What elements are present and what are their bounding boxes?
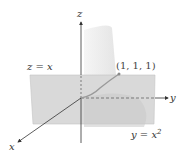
point-label: (1, 1, 1) <box>116 60 156 71</box>
plane-label: z = x <box>26 61 53 72</box>
cylinder-surface-upper <box>84 25 116 75</box>
y-axis-label: y <box>169 92 176 103</box>
cylinder-label-exp: 2 <box>156 128 162 136</box>
cylinder-label: y = x2 <box>130 128 162 140</box>
x-axis-label: x <box>9 141 15 152</box>
diagram-canvas: z y x z = x (1, 1, 1) y = x2 <box>0 0 182 159</box>
z-axis-label: z <box>76 8 83 19</box>
point-marker <box>118 73 121 76</box>
cylinder-surface-lower <box>84 93 146 127</box>
cylinder-label-base: y = x <box>130 129 157 140</box>
